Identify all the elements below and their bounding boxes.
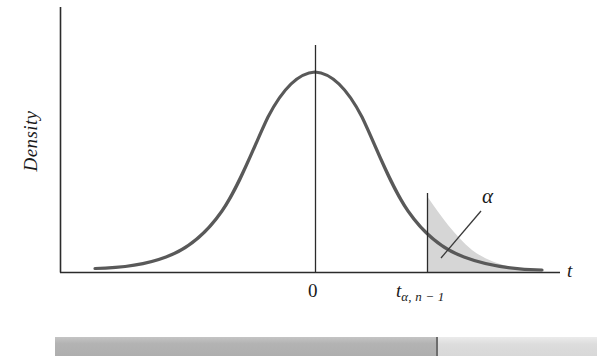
figure-canvas	[0, 0, 597, 356]
y-axis-label: Density	[0, 111, 75, 171]
x-tick-label-zero: 0	[308, 281, 318, 300]
alpha-annotation-label: α	[482, 186, 493, 207]
x-axis-label: t	[567, 261, 572, 280]
critical-subscript-df: n − 1	[415, 289, 444, 304]
critical-subscript: α, n − 1	[401, 289, 444, 304]
t-distribution-figure: Density 0 tα, n − 1 t α	[0, 0, 597, 356]
bottom-page-bar-right-segment	[438, 337, 597, 356]
bottom-page-bar-left-segment	[55, 337, 436, 356]
bottom-page-bar	[55, 337, 597, 356]
x-tick-label-critical-value: tα, n − 1	[396, 281, 445, 303]
density-curve	[95, 72, 542, 270]
